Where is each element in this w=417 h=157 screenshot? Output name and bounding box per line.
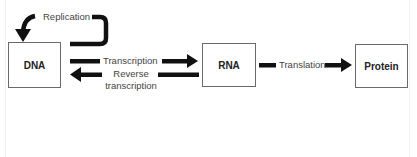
translation-label: Translation (279, 59, 326, 70)
node-protein: Protein (355, 44, 408, 88)
transcription-head-bar (162, 59, 189, 64)
replication-label: Replication (43, 11, 90, 22)
node-dna: DNA (8, 42, 61, 88)
transcription-label: Transcription (103, 55, 158, 66)
translation-head-bar (325, 63, 343, 68)
node-dna-label: DNA (24, 60, 46, 71)
node-rna: RNA (202, 43, 256, 87)
node-protein-label: Protein (364, 61, 398, 72)
reverse-transcription-head-bar (80, 73, 102, 78)
node-rna-label: RNA (218, 60, 240, 71)
translation-tail-bar (259, 63, 276, 68)
replication-arrowhead-icon (15, 29, 31, 42)
reverse-transcription-label-line2: transcription (100, 80, 162, 91)
translation-arrowhead-icon (341, 58, 352, 72)
transcription-tail-bar (70, 59, 100, 64)
reverse-transcription-arrowhead-icon (70, 67, 81, 82)
reverse-transcription-tail-bar (158, 73, 199, 78)
transcription-arrowhead-icon (187, 54, 198, 68)
reverse-transcription-label-line1: Reverse (105, 68, 157, 79)
